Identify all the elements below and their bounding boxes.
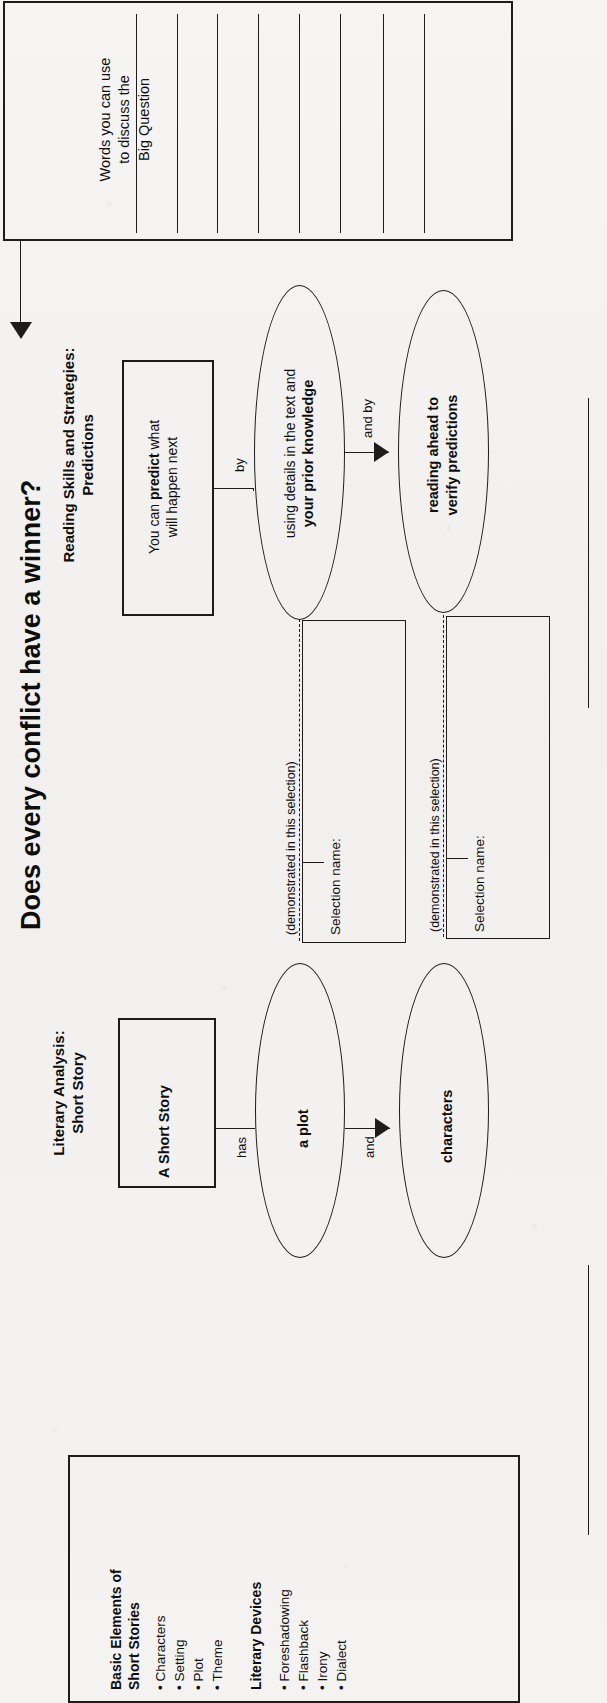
literary-devices-title-text: Literary Devices	[247, 1460, 265, 1690]
short-story-root-stem	[216, 1128, 255, 1129]
basic-elements-list: • Theme	[209, 1460, 228, 1690]
prediction-selection-label-1: Selection name:	[328, 838, 343, 935]
literary-analysis-heading-line-2: Short Story	[69, 943, 88, 1243]
literary-analysis-heading-line-1: Literary Analysis:	[50, 943, 69, 1243]
prediction-selection-label-2: Selection name:	[472, 835, 487, 932]
reading-skills-heading-line-2: Predictions	[79, 290, 98, 620]
prediction-edge-label-and-by: and by	[360, 399, 375, 438]
word-bank-title-line-1: Words you can use	[96, 7, 115, 232]
prediction-node-2-line-1: reading ahead to	[424, 310, 443, 600]
basic-elements-item: • Plot	[190, 1460, 209, 1690]
worksheet-content: Words you can use to discuss the Big Que…	[0, 0, 607, 1703]
prediction-node-1-line-1: using details in the text and	[281, 301, 299, 606]
literary-devices-title: Literary Devices	[247, 1460, 265, 1690]
prediction-selection-writeline-1[interactable]	[302, 862, 324, 863]
basic-elements-list: • Characters	[152, 1460, 171, 1690]
word-bank-connector-line	[20, 241, 21, 325]
basic-elements-list: • Setting	[171, 1460, 190, 1690]
word-bank-title-line-3: Big Question	[135, 7, 154, 232]
offpage-box-edge	[588, 398, 589, 708]
basic-elements-title: Basic Elements of Short Stories	[107, 1460, 143, 1690]
literary-devices-item: • Foreshadowing	[276, 1460, 295, 1690]
literary-devices-list: • Foreshadowing	[276, 1460, 295, 1690]
word-bank-connector-arrowhead	[10, 322, 32, 339]
prediction-node-1-line-2: your prior knowledge	[299, 301, 318, 606]
basic-elements-title-line-2: Short Stories	[125, 1460, 143, 1690]
literary-devices-list: • Dialect	[333, 1460, 352, 1690]
short-story-node-1-label: a plot	[294, 1109, 313, 1148]
word-bank-blank-line[interactable]	[299, 14, 300, 233]
literary-devices-item: • Flashback	[295, 1460, 314, 1690]
short-story-node-2-label: characters	[438, 1090, 457, 1163]
prediction-selection-box-1[interactable]	[302, 620, 406, 943]
reading-skills-heading-line-1: Reading Skills and Strategies:	[60, 290, 79, 620]
word-bank-blank-line[interactable]	[424, 14, 425, 233]
basic-elements-list: • Plot	[190, 1460, 209, 1690]
short-story-edge-label-and: and	[362, 1136, 377, 1158]
prediction-node-2-line-2: verify predictions	[443, 310, 462, 600]
prediction-demo-caption-2: (demonstrated in this selection)	[428, 758, 442, 932]
prediction-root-line-1: You can predict what	[145, 369, 163, 605]
word-bank-title: Words you can use to discuss the Big Que…	[96, 7, 154, 232]
short-story-root-label: A Short Story	[155, 1085, 174, 1178]
short-story-node1-to-node2-arrowhead	[375, 1118, 390, 1138]
word-bank-blank-line[interactable]	[258, 14, 259, 233]
prediction-demo-dashline-2	[443, 615, 444, 937]
prediction-selection-writeline-2[interactable]	[446, 858, 468, 859]
basic-elements-item: • Characters	[152, 1460, 171, 1690]
page-title: Does every conflict have a winner?	[16, 480, 47, 930]
literary-devices-item: • Irony	[314, 1460, 333, 1690]
basic-elements-item: • Setting	[171, 1460, 190, 1690]
offpage-box-edge	[588, 1265, 589, 1535]
basic-elements-item: • Theme	[209, 1460, 228, 1690]
prediction-edge-label-by: by	[232, 458, 247, 472]
prediction-root-text: You can predict what will happen next	[145, 369, 182, 605]
prediction-node1-to-node2-arrowhead	[374, 442, 389, 462]
word-bank-blank-line[interactable]	[340, 14, 341, 233]
prediction-demo-dashline-1	[299, 619, 300, 941]
prediction-root-line-2: will happen next	[163, 369, 181, 605]
short-story-edge-label-has: has	[234, 1137, 249, 1158]
prediction-demo-caption-1: (demonstrated in this selection)	[284, 761, 298, 935]
word-bank-blank-line[interactable]	[217, 14, 218, 233]
prediction-node-1-text: using details in the text and your prior…	[281, 301, 318, 606]
literary-analysis-heading: Literary Analysis: Short Story	[50, 943, 88, 1243]
reading-skills-heading: Reading Skills and Strategies: Predictio…	[60, 290, 98, 620]
word-bank-blank-line[interactable]	[383, 14, 384, 233]
prediction-root-stem	[214, 488, 254, 489]
literary-devices-item: • Dialect	[333, 1460, 352, 1690]
literary-devices-list: • Flashback	[295, 1460, 314, 1690]
word-bank-title-line-2: to discuss the	[115, 7, 134, 232]
prediction-branch-bar	[253, 488, 254, 491]
word-bank-blank-line[interactable]	[177, 14, 178, 233]
word-bank-blank-line[interactable]	[136, 14, 137, 233]
prediction-selection-box-2[interactable]	[446, 616, 550, 939]
basic-elements-title-line-1: Basic Elements of	[107, 1460, 125, 1690]
prediction-node-2-text: reading ahead to verify predictions	[424, 310, 462, 600]
literary-devices-list: • Irony	[314, 1460, 333, 1690]
